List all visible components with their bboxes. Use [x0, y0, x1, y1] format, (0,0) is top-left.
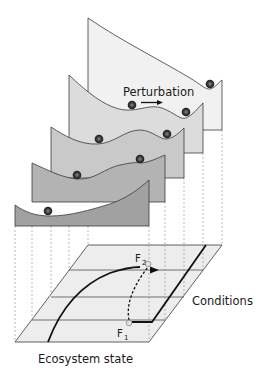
- ball-icon: [95, 135, 104, 144]
- perturbation-label: Perturbation: [123, 85, 194, 99]
- f2-subscript: 2: [142, 259, 146, 267]
- ecosystem-state-axis-label: Ecosystem state: [38, 352, 133, 366]
- ball-icon: [182, 108, 191, 117]
- ball-icon: [73, 171, 82, 180]
- ball-icon: [128, 101, 137, 110]
- f1-label: F: [117, 328, 123, 339]
- f1-subscript: 1: [124, 334, 128, 342]
- f2-label: F: [135, 253, 141, 264]
- ball-icon: [163, 130, 172, 139]
- stability-landscape-diagram: Perturbation: [0, 0, 259, 378]
- f1-marker: [126, 320, 132, 326]
- ball-icon: [44, 207, 53, 216]
- conditions-axis-label: Conditions: [192, 294, 253, 308]
- ball-icon: [136, 155, 145, 164]
- ball-icon: [206, 80, 215, 89]
